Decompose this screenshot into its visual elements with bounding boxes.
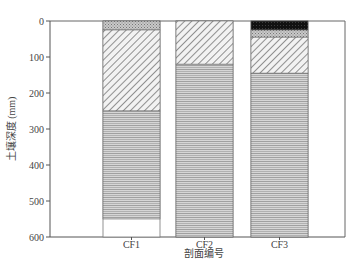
layer-zigzag [251,73,308,237]
profile-cf3 [251,21,308,237]
layer-zigzag [103,111,160,219]
profile-cf2 [176,21,233,237]
profile-bars [103,21,308,237]
layer-fine-dots [251,30,308,37]
y-tick-label: 600 [29,232,44,243]
y-axis-ticks: 0100200300400500600 [29,16,50,243]
y-tick-label: 500 [29,196,44,207]
x-tick-label: CF3 [271,239,288,250]
y-tick-label: 100 [29,52,44,63]
y-tick-label: 0 [39,16,44,27]
y-tick-label: 200 [29,88,44,99]
layer-diagonal-hatch [251,37,308,73]
y-tick-label: 300 [29,124,44,135]
layer-black [251,21,308,30]
soil-profile-chart: 0100200300400500600 CF1CF2CF3 剖面编号 土壤深度 … [0,0,364,279]
x-tick-label: CF1 [123,239,140,250]
layer-diagonal-hatch [176,21,233,64]
y-tick-label: 400 [29,160,44,171]
y-axis-label: 土壤深度 (mm) [5,97,18,162]
profile-cf1 [103,21,160,237]
x-axis-label: 剖面编号 [184,247,224,259]
layer-diagonal-hatch [103,30,160,111]
layer-zigzag [176,64,233,237]
layer-fine-dots [103,21,160,30]
